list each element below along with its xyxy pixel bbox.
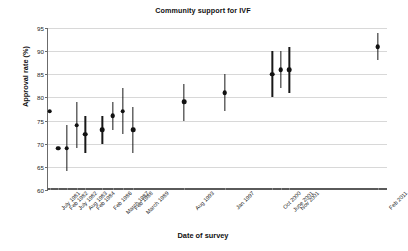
data-point xyxy=(56,146,61,151)
data-point xyxy=(100,128,105,133)
gridline xyxy=(48,28,387,29)
x-tick-mark xyxy=(123,188,124,190)
x-tick-mark xyxy=(225,188,226,190)
x-tick-mark xyxy=(77,188,78,190)
x-tick-mark xyxy=(378,188,379,190)
data-point xyxy=(270,72,275,77)
data-point xyxy=(47,109,52,114)
y-tick-mark xyxy=(45,190,48,191)
data-point xyxy=(182,100,187,105)
x-tick-mark xyxy=(113,188,114,190)
y-axis-title: Approval rate (%) xyxy=(21,0,30,157)
x-tick-mark xyxy=(102,188,103,190)
y-tick-mark xyxy=(45,121,48,122)
y-tick-label: 95 xyxy=(37,25,44,32)
y-tick-mark xyxy=(45,28,48,29)
gridline xyxy=(48,167,387,168)
x-axis-title: Date of survey xyxy=(0,231,406,240)
gridline xyxy=(48,74,387,75)
data-point xyxy=(75,123,80,128)
data-point xyxy=(223,90,228,95)
x-tick-mark xyxy=(58,188,59,190)
chart-title: Community support for IVF xyxy=(0,6,406,15)
y-tick-label: 75 xyxy=(37,117,44,124)
x-tick-label: Aug 1993 xyxy=(194,190,215,211)
x-tick-label: Feb 2011 xyxy=(388,190,408,211)
data-point xyxy=(376,44,381,49)
y-tick-label: 90 xyxy=(37,48,44,55)
x-tick-mark xyxy=(272,188,273,190)
x-tick-mark xyxy=(281,188,282,190)
x-tick-label: Jan 1997 xyxy=(235,190,256,211)
data-point xyxy=(121,109,126,114)
y-tick-label: 60 xyxy=(37,187,44,194)
gridline xyxy=(48,144,387,145)
data-point xyxy=(131,128,136,133)
gridline xyxy=(48,121,387,122)
y-tick-mark xyxy=(45,144,48,145)
y-tick-mark xyxy=(45,74,48,75)
x-tick-mark xyxy=(133,188,134,190)
data-point xyxy=(279,67,284,72)
y-tick-mark xyxy=(45,51,48,52)
x-tick-mark xyxy=(50,188,51,190)
data-point xyxy=(64,146,69,151)
plot-area: 6065707580859095 July 1981Feb 1982July 1… xyxy=(47,28,387,190)
gridline xyxy=(48,97,387,98)
y-tick-mark xyxy=(45,97,48,98)
gridline xyxy=(48,51,387,52)
x-tick-mark xyxy=(85,188,86,190)
data-point xyxy=(83,132,88,137)
x-tick-mark xyxy=(67,188,68,190)
y-tick-mark xyxy=(45,167,48,168)
data-point xyxy=(287,67,292,72)
x-tick-mark xyxy=(289,188,290,190)
y-tick-label: 70 xyxy=(37,140,44,147)
data-point xyxy=(110,114,115,119)
y-tick-label: 85 xyxy=(37,71,44,78)
y-tick-label: 80 xyxy=(37,94,44,101)
x-tick-mark xyxy=(184,188,185,190)
y-tick-label: 65 xyxy=(37,163,44,170)
